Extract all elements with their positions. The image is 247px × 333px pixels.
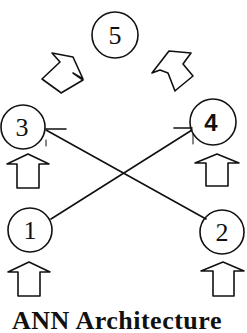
input-arrow-1-icon (8, 262, 50, 296)
node-1-label: 1 (24, 216, 37, 245)
arrow-4-to-5-icon (152, 51, 193, 91)
node-2-label: 2 (216, 218, 229, 247)
arrow-2-to-4-icon (195, 154, 239, 186)
edge-3-to-2 (46, 130, 206, 219)
node-1: 1 (8, 208, 52, 252)
input-arrow-2-icon (201, 262, 244, 296)
edge-1-to-4 (51, 130, 192, 219)
node-5: 5 (92, 12, 138, 58)
node-4-label: 4 (204, 109, 218, 136)
node-5-label: 5 (109, 21, 122, 50)
arrow-3-to-5-icon (42, 53, 83, 93)
node-3: 3 (1, 105, 45, 149)
arrow-1-to-3-icon (7, 154, 49, 188)
node-4: 4 (190, 99, 236, 145)
node-3-label: 3 (16, 113, 29, 142)
node-2: 2 (200, 210, 244, 254)
diagram-caption: ANN Architecture (12, 306, 222, 333)
